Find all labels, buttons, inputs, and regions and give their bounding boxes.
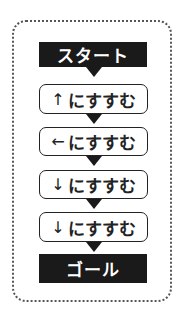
flow-arrow-down-icon	[86, 199, 102, 209]
up-arrow-icon: ↑	[51, 90, 64, 109]
flow-arrow-down-icon	[86, 114, 102, 124]
down-arrow-icon: ↓	[51, 175, 64, 194]
step-3: ↓ にすすむ	[39, 170, 148, 199]
left-arrow-icon: ←	[51, 132, 64, 151]
step-4: ↓ にすすむ	[39, 212, 148, 242]
start-terminal: スタート	[39, 42, 147, 67]
flow-arrow-down-icon	[86, 67, 102, 77]
start-label: スタート	[57, 42, 129, 67]
goal-label: ゴール	[66, 256, 120, 281]
step-label: にすすむ	[68, 172, 136, 197]
goal-terminal: ゴール	[39, 254, 147, 283]
step-label: にすすむ	[68, 87, 136, 112]
step-1: ↑ にすすむ	[39, 84, 148, 114]
down-arrow-icon: ↓	[51, 218, 64, 237]
step-label: にすすむ	[68, 129, 136, 154]
step-label: にすすむ	[68, 215, 136, 240]
flow-arrow-down-icon	[86, 242, 102, 252]
flow-arrow-down-icon	[86, 156, 102, 166]
step-2: ← にすすむ	[39, 127, 148, 156]
